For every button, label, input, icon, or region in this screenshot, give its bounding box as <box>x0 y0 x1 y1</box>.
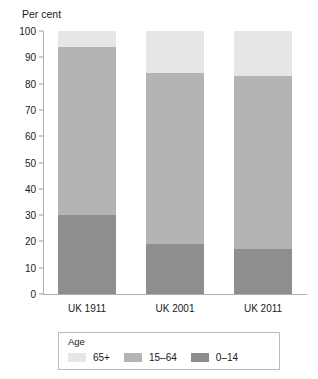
y-axis-tick-label: 80 <box>14 78 36 89</box>
y-axis-tick-mark <box>39 294 43 295</box>
y-axis-tick-label: 0 <box>14 289 36 300</box>
legend-items: 65+15–640–14 <box>68 352 273 363</box>
legend-title: Age <box>68 336 85 347</box>
y-axis-tick: 60 <box>14 131 43 142</box>
y-axis-tick-mark <box>39 83 43 84</box>
y-axis-tick-label: 100 <box>14 26 36 37</box>
bar-segment <box>58 31 116 47</box>
y-axis-title: Per cent <box>22 8 61 20</box>
legend-item[interactable]: 15–64 <box>124 352 177 363</box>
bar-segment <box>146 73 204 244</box>
y-axis-tick-mark <box>39 215 43 216</box>
y-axis-tick: 90 <box>14 52 43 63</box>
y-axis-tick-mark <box>39 188 43 189</box>
y-axis-tick-label: 30 <box>14 210 36 221</box>
bar-segment <box>146 244 204 294</box>
legend-label: 0–14 <box>216 352 238 363</box>
legend-item[interactable]: 0–14 <box>191 352 238 363</box>
y-axis-tick-label: 10 <box>14 262 36 273</box>
y-axis-tick-mark <box>39 109 43 110</box>
x-axis-category-label: UK 1911 <box>42 303 132 314</box>
x-axis-line <box>43 294 307 295</box>
y-axis-tick-label: 50 <box>14 157 36 168</box>
y-axis-tick: 0 <box>14 289 43 300</box>
legend: Age 65+15–640–14 <box>58 332 280 370</box>
legend-swatch <box>124 353 142 362</box>
bar-segment <box>58 47 116 215</box>
legend-swatch <box>68 353 86 362</box>
y-axis-tick-mark <box>39 241 43 242</box>
y-axis-tick-label: 60 <box>14 131 36 142</box>
legend-swatch <box>191 353 209 362</box>
bar-uk-2011[interactable] <box>234 31 292 294</box>
y-axis-tick: 20 <box>14 236 43 247</box>
y-axis-tick-label: 40 <box>14 183 36 194</box>
bar-segment <box>234 31 292 76</box>
y-axis-tick-label: 90 <box>14 52 36 63</box>
legend-label: 65+ <box>93 352 110 363</box>
legend-item[interactable]: 65+ <box>68 352 110 363</box>
plot-area: 0102030405060708090100 <box>43 31 307 294</box>
y-axis-tick-label: 20 <box>14 236 36 247</box>
y-axis-tick: 50 <box>14 157 43 168</box>
stacked-bar-chart: Per cent 0102030405060708090100 Age 65+1… <box>0 0 318 379</box>
y-axis-tick-mark <box>39 136 43 137</box>
bar-segment <box>234 249 292 294</box>
y-axis-tick: 10 <box>14 262 43 273</box>
y-axis-tick: 70 <box>14 104 43 115</box>
bar-uk-2001[interactable] <box>146 31 204 294</box>
y-axis-tick: 40 <box>14 183 43 194</box>
y-axis-tick-label: 70 <box>14 104 36 115</box>
bar-segment <box>58 215 116 294</box>
legend-label: 15–64 <box>149 352 177 363</box>
bar-segment <box>146 31 204 73</box>
y-axis-tick-mark <box>39 162 43 163</box>
y-axis-tick-mark <box>39 57 43 58</box>
y-axis-tick: 30 <box>14 210 43 221</box>
y-axis-tick: 100 <box>14 26 43 37</box>
x-axis-category-label: UK 2001 <box>130 303 220 314</box>
y-axis-tick-mark <box>39 267 43 268</box>
y-axis-tick: 80 <box>14 78 43 89</box>
bar-segment <box>234 76 292 250</box>
y-axis-tick-mark <box>39 31 43 32</box>
bar-uk-1911[interactable] <box>58 31 116 294</box>
x-axis-category-label: UK 2011 <box>218 303 308 314</box>
